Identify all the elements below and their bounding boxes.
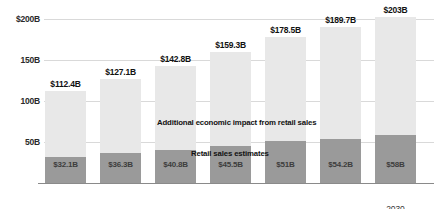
bar-retail-label: $40.8B [163, 160, 188, 169]
bar-2024[interactable]: $112.4B $32.1B 2024 [45, 91, 86, 183]
plot-area: $112.4B $32.1B 2024 $127.1B $36.3B 2025 … [44, 0, 436, 209]
bar-retail-label: $51B [276, 160, 294, 169]
bar-retail-label: $54.2B [328, 160, 353, 169]
stacked-bar-chart: $200B 150B 100B 50B $112.4B $32.1B 2024 … [0, 0, 436, 209]
bar-retail-label: $45.5B [218, 160, 243, 169]
bar-total-label: $178.5B [270, 25, 301, 35]
bar-total-label: $142.8B [160, 54, 191, 64]
y-tick-50: 50B [0, 137, 40, 147]
bar-retail-label: $58B [386, 160, 404, 169]
bar-total-label: $203B [383, 5, 407, 15]
bar-2030[interactable]: $203B $58B 2030 [375, 17, 416, 183]
bar-2025[interactable]: $127.1B $36.3B 2025 [100, 79, 141, 183]
annotation-additional-impact: Additional economic impact from retail s… [157, 118, 316, 127]
y-tick-100: 100B [0, 96, 40, 106]
bar-total-label: $159.3B [215, 40, 246, 50]
bar-total-label: $112.4B [50, 79, 80, 89]
bar-2029[interactable]: $189.7B $54.2B 2029 [320, 27, 361, 183]
annotation-retail-estimates: Retail sales estimates [191, 149, 269, 158]
bar-retail-label: $36.3B [108, 160, 133, 169]
bar-total-label: $189.7B [325, 15, 356, 25]
y-tick-150: 150B [0, 55, 40, 65]
bar-total-label: $127.1B [105, 67, 136, 77]
x-axis-line [38, 183, 434, 184]
x-label-2030: 2030 [386, 204, 405, 209]
bar-retail-label: $32.1B [53, 160, 78, 169]
bar-2028[interactable]: $178.5B $51B 2028 [265, 37, 306, 183]
y-tick-200: $200B [0, 14, 40, 24]
y-axis: $200B 150B 100B 50B [0, 0, 40, 209]
